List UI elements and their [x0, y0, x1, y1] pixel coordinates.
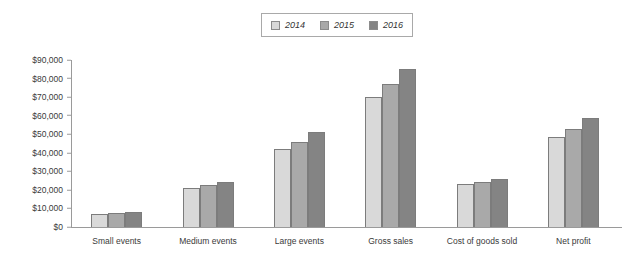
x-axis-category-label: Small events — [92, 237, 141, 246]
y-axis-tick-label: $60,000 — [32, 111, 67, 120]
y-axis-tick-label: $50,000 — [32, 130, 67, 139]
y-axis-tick: $60,000 — [32, 111, 71, 120]
legend-item-label: 2016 — [383, 21, 403, 30]
bar-2014[interactable] — [548, 137, 565, 227]
y-axis-tick-mark — [67, 189, 71, 190]
y-axis-tick-label: $20,000 — [32, 186, 67, 195]
y-axis-tick-mark — [67, 134, 71, 135]
y-axis-tick-mark — [67, 60, 71, 61]
x-axis-category-label: Cost of goods sold — [447, 237, 517, 246]
y-axis-tick: $10,000 — [32, 204, 71, 213]
chart-legend: 201420152016 — [261, 13, 413, 37]
bar-group-bars — [457, 60, 508, 227]
legend-swatch-icon — [320, 21, 329, 30]
bar-2014[interactable] — [365, 97, 382, 227]
bar-2014[interactable] — [91, 214, 108, 227]
y-axis-tick-mark — [67, 208, 71, 209]
bar-2016[interactable] — [582, 118, 599, 227]
bar-group-bars — [365, 60, 416, 227]
y-axis-tick: $80,000 — [32, 74, 71, 83]
bar-2015[interactable] — [291, 142, 308, 227]
y-axis-tick-label: $90,000 — [32, 56, 67, 65]
bar-chart: 201420152016 $90,000$80,000$70,000$60,00… — [0, 0, 636, 263]
x-axis-category-label: Gross sales — [368, 237, 413, 246]
bar-group: Cost of goods sold — [457, 60, 508, 227]
y-axis-tick-label: $80,000 — [32, 74, 67, 83]
bar-2015[interactable] — [200, 185, 217, 227]
bar-group: Medium events — [183, 60, 234, 227]
y-axis-tick-label: $70,000 — [32, 93, 67, 102]
bar-2014[interactable] — [457, 184, 474, 227]
y-axis-tick-mark — [67, 115, 71, 116]
legend-item-label: 2015 — [334, 21, 354, 30]
y-axis-tick: $20,000 — [32, 186, 71, 195]
legend-item-2016[interactable]: 2016 — [369, 21, 403, 30]
y-axis-tick-label: $0 — [54, 223, 67, 232]
bar-2014[interactable] — [274, 149, 291, 227]
legend-item-label: 2014 — [285, 21, 305, 30]
x-axis-category-label: Medium events — [179, 237, 237, 246]
bar-group: Small events — [91, 60, 142, 227]
bar-2016[interactable] — [125, 212, 142, 227]
y-axis-tick: $70,000 — [32, 93, 71, 102]
y-axis-tick-mark — [67, 152, 71, 153]
legend-item-2015[interactable]: 2015 — [320, 21, 354, 30]
bar-2015[interactable] — [108, 213, 125, 227]
bar-group: Gross sales — [365, 60, 416, 227]
bar-group-bars — [274, 60, 325, 227]
bar-2014[interactable] — [183, 188, 200, 227]
bar-2016[interactable] — [491, 179, 508, 227]
y-axis-tick: $50,000 — [32, 130, 71, 139]
bar-group: Large events — [274, 60, 325, 227]
legend-swatch-icon — [369, 21, 378, 30]
bar-2016[interactable] — [399, 69, 416, 227]
bar-2015[interactable] — [382, 84, 399, 227]
bar-2015[interactable] — [474, 182, 491, 227]
bar-2016[interactable] — [308, 132, 325, 227]
plot-area: $90,000$80,000$70,000$60,000$50,000$40,0… — [71, 60, 619, 227]
y-axis-tick: $90,000 — [32, 56, 71, 65]
y-axis-tick-mark — [67, 227, 71, 228]
bar-group-bars — [91, 60, 142, 227]
bar-group-bars — [183, 60, 234, 227]
y-axis-tick-mark — [67, 78, 71, 79]
y-axis-tick: $30,000 — [32, 167, 71, 176]
y-axis-tick-label: $10,000 — [32, 204, 67, 213]
y-axis-tick-label: $40,000 — [32, 149, 67, 158]
x-axis-category-label: Net profit — [556, 237, 591, 246]
legend-swatch-icon — [271, 21, 280, 30]
x-axis-category-label: Large events — [275, 237, 324, 246]
bar-group: Net profit — [548, 60, 599, 227]
y-axis-tick-mark — [67, 171, 71, 172]
legend-item-2014[interactable]: 2014 — [271, 21, 305, 30]
bar-2016[interactable] — [217, 182, 234, 227]
y-axis-tick-mark — [67, 97, 71, 98]
bar-2015[interactable] — [565, 129, 582, 227]
y-axis-tick: $40,000 — [32, 149, 71, 158]
y-axis-tick-label: $30,000 — [32, 167, 67, 176]
y-axis-tick: $0 — [54, 223, 71, 232]
x-axis-line — [71, 227, 622, 228]
bar-group-bars — [548, 60, 599, 227]
